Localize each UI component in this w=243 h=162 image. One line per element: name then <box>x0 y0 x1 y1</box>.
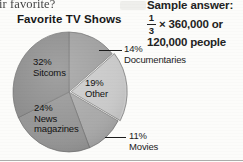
slice-label-news-magazines: 24% News magazines <box>34 103 79 135</box>
slice-percent-sitcoms: 32% <box>33 56 52 67</box>
slice-name-news: News <box>34 113 57 124</box>
leader-line-movies <box>105 137 126 138</box>
scan-smudge <box>120 1 146 10</box>
fraction-numerator: 1 <box>148 13 155 24</box>
fraction-denominator: 3 <box>148 25 155 36</box>
slice-name-documentaries: Documentaries <box>124 54 186 65</box>
slice-label-sitcoms: 32% Sitcoms <box>33 57 66 78</box>
slice-name-movies: Movies <box>129 141 158 152</box>
slice-percent-other: 19% <box>85 77 104 88</box>
slice-label-movies: 11% Movies <box>129 131 158 152</box>
sample-answer-block: Sample answer: 1 3 × 360,000 or 120,000 … <box>147 0 243 48</box>
chart-title: Favorite TV Shows <box>17 13 122 25</box>
sample-answer-title: Sample answer: <box>147 0 243 11</box>
slice-percent-news-magazines: 24% <box>34 102 53 113</box>
slice-name-sitcoms: Sitcoms <box>33 67 66 78</box>
sample-answer-expression: 1 3 × 360,000 or <box>147 13 243 35</box>
expression-remainder: × 360,000 or <box>159 18 223 30</box>
slice-label-other: 19% Other <box>85 78 108 99</box>
slice-label-documentaries: 14% Documentaries <box>124 44 186 65</box>
cut-off-question-text: ir favorite? <box>0 0 55 12</box>
slice-percent-movies: 11% <box>129 130 147 141</box>
leader-line-documentaries <box>99 50 122 51</box>
slice-percent-documentaries: 14% <box>124 43 143 54</box>
slice-name-other: Other <box>85 88 108 99</box>
scanned-figure-page: ir favorite? Favorite TV Shows Sample an… <box>0 0 243 161</box>
scan-bottom-edge <box>0 160 243 162</box>
fraction-one-third: 1 3 <box>147 13 156 35</box>
slice-name-magazines: magazines <box>34 123 79 134</box>
